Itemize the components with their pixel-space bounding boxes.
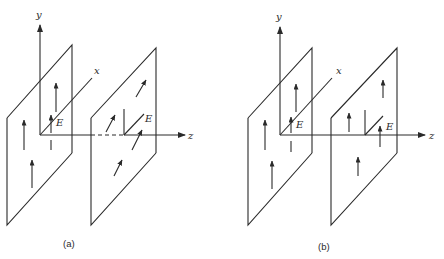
z-axis-label-a: z — [187, 130, 194, 141]
panel-b: y x z E E (b) — [248, 11, 435, 252]
x-axis-a — [40, 78, 92, 135]
field-arrows-b-right — [349, 80, 383, 176]
y-axis-label-b: y — [275, 11, 282, 22]
x-axis-b — [280, 78, 332, 135]
figure-canvas: y x z E E ( — [0, 0, 444, 259]
plate-a-right — [91, 48, 156, 225]
x-axis-label-a: x — [94, 65, 100, 76]
caption-a: (a) — [63, 238, 75, 249]
y-axis-label-a: y — [35, 9, 42, 20]
panel-a: y x z E E ( — [7, 9, 194, 249]
field-label-b-2: E — [385, 121, 394, 132]
x-axis-label-b: x — [336, 65, 342, 76]
field-arrows-a-right — [106, 80, 146, 176]
z-axis-label-b: z — [428, 130, 435, 141]
caption-b: (b) — [318, 241, 330, 252]
field-label-a-2: E — [144, 113, 153, 124]
field-label-b-1: E — [295, 119, 304, 130]
field-label-a-1: E — [55, 117, 64, 128]
